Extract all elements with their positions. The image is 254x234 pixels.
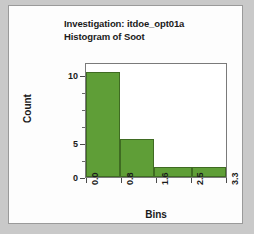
y-tick-label-10: 10 — [56, 72, 78, 81]
y-tick-label-5: 5 — [56, 140, 78, 149]
x-tick-label-2: 1.6 — [161, 172, 170, 185]
chart-title-investigation: Investigation: itdoe_opt01a — [64, 17, 239, 30]
x-tick-label-4: 3.3 — [231, 172, 240, 185]
x-tick-1 — [121, 178, 122, 183]
x-tick-label-1: 0.8 — [126, 172, 135, 185]
y-tick-major-0 — [80, 178, 85, 179]
x-tick-3 — [191, 178, 192, 183]
x-axis-title: Bins — [85, 209, 227, 220]
histogram-bar-0 — [86, 72, 120, 177]
y-axis-title: Count — [22, 79, 33, 139]
plot-area — [85, 63, 227, 178]
chart-card: Investigation: itdoe_opt01a Histogram of… — [8, 5, 243, 224]
x-tick-label-3: 2.5 — [196, 172, 205, 185]
x-tick-2 — [156, 178, 157, 183]
y-axis-labels: 0 5 10 — [51, 6, 78, 234]
screenshot-root: Investigation: itdoe_opt01a Histogram of… — [0, 0, 254, 234]
x-tick-0 — [86, 178, 87, 183]
x-tick-4 — [226, 178, 227, 183]
chart-title-block: Investigation: itdoe_opt01a Histogram of… — [64, 17, 239, 43]
histogram-bar-1 — [120, 139, 154, 177]
x-tick-label-0: 0.0 — [91, 172, 100, 185]
y-tick-label-0: 0 — [56, 174, 78, 183]
plot-inner — [86, 64, 226, 177]
chart-title-histogram: Histogram of Soot — [64, 30, 239, 43]
